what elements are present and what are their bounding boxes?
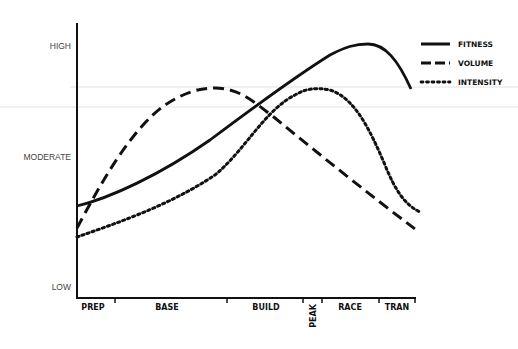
legend-volume-label: VOLUME xyxy=(458,59,493,68)
series-volume-line xyxy=(77,88,415,229)
periodization-chart: HIGH MODERATE LOW PREP BASE BUILD PEAK R… xyxy=(0,0,518,349)
y-label-low: LOW xyxy=(52,282,71,292)
phase-label-build: BUILD xyxy=(252,303,280,312)
legend-intensity-label: INTENSITY xyxy=(458,78,503,87)
series-fitness-line xyxy=(77,44,411,206)
legend-fitness-label: FITNESS xyxy=(458,40,493,49)
y-label-high: HIGH xyxy=(50,41,71,51)
y-label-moderate: MODERATE xyxy=(23,152,71,162)
phase-label-race: RACE xyxy=(338,303,362,312)
legend: FITNESS VOLUME INTENSITY xyxy=(421,40,503,87)
phase-label-peak: PEAK xyxy=(309,303,318,328)
phase-label-prep: PREP xyxy=(81,303,104,312)
phase-label-tran: TRAN xyxy=(385,303,410,312)
phase-label-base: BASE xyxy=(155,303,179,312)
